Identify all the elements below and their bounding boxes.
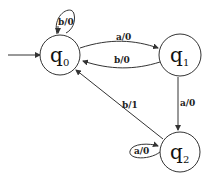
edge-label-q2-q2: a/0 [134, 146, 149, 156]
svg-text:q: q [50, 43, 63, 67]
edge-q2-q0 [76, 70, 163, 139]
svg-text:0: 0 [63, 57, 69, 68]
state-q0: q 0 [40, 35, 80, 75]
svg-text:1: 1 [183, 57, 189, 68]
edge-q0-q1 [80, 41, 158, 48]
svg-text:2: 2 [183, 154, 189, 165]
svg-text:q: q [170, 43, 183, 67]
edge-label-q1-q0: b/0 [114, 55, 130, 65]
svg-text:q: q [170, 140, 183, 164]
edge-label-q1-q2: a/0 [180, 98, 195, 108]
state-q2: q 2 [160, 132, 200, 172]
edge-label-q2-q0: b/1 [122, 100, 138, 110]
state-q1: q 1 [159, 34, 201, 76]
state-diagram: b/0 a/0 b/0 a/0 b/1 a/0 q 0 q 1 q 2 [0, 0, 211, 183]
edge-label-q0-q1: a/0 [116, 32, 131, 42]
edge-label-q0-q0: b/0 [58, 17, 74, 27]
